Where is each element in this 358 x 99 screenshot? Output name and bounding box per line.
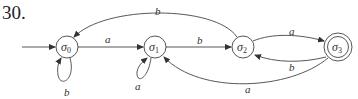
label-s3-s2: b bbox=[289, 61, 295, 73]
label-loop-s1: a bbox=[135, 80, 141, 92]
label-s1-s2: b bbox=[197, 34, 203, 46]
label-s0-s1: a bbox=[105, 33, 111, 45]
label-s2-s0: b bbox=[155, 5, 161, 17]
loop-s0 bbox=[58, 58, 72, 81]
automaton-diagram: σ0 σ1 σ2 σ3 b a b a b a b a bbox=[0, 0, 358, 99]
label-loop-s0: b bbox=[64, 86, 70, 98]
label-s3-s1: a bbox=[245, 83, 251, 95]
loop-s1 bbox=[137, 58, 151, 79]
label-s2-s3: a bbox=[289, 25, 295, 37]
